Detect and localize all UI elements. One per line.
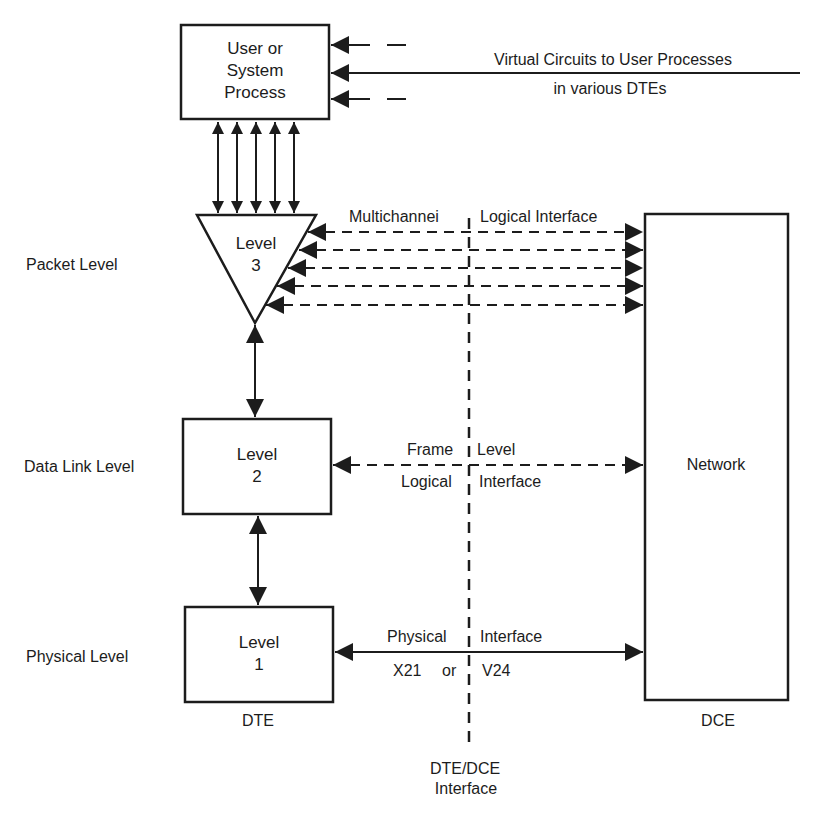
level2-line2: 2	[183, 466, 331, 488]
v24-label: V24	[482, 661, 510, 681]
dte-dce-interface-line1: DTE/DCE	[430, 759, 500, 779]
level3-line1: Level	[197, 233, 315, 255]
multichannel-label: Multichannei	[349, 207, 439, 227]
user-process-label: User or System Process	[181, 38, 329, 104]
user-process-line3: Process	[181, 82, 329, 104]
logical-interface-label: Logical Interface	[480, 207, 597, 227]
frame-label: Frame	[407, 440, 453, 460]
level1-line2: 1	[185, 654, 333, 676]
or-label: or	[442, 661, 456, 681]
dte-label: DTE	[242, 711, 274, 731]
frame-logical-label: Logical	[401, 472, 452, 492]
network-label: Network	[687, 455, 746, 475]
diagram-graphics	[0, 0, 821, 815]
dte-dce-interface-line2: Interface	[435, 779, 497, 799]
virtual-circuits-label: Virtual Circuits to User Processes	[494, 50, 732, 70]
level2-line1: Level	[183, 444, 331, 466]
various-dtes-label: in various DTEs	[554, 79, 667, 99]
x25-diagram: User or System Process Virtual Circuits …	[0, 0, 821, 815]
data-link-level-label: Data Link Level	[24, 457, 134, 477]
physical-level-label: Physical Level	[26, 647, 128, 667]
multichannel-arrows	[266, 232, 643, 305]
process-channel-arrows	[218, 122, 294, 213]
level2-label: Level 2	[183, 444, 331, 488]
x21-label: X21	[393, 661, 421, 681]
packet-level-label: Packet Level	[26, 255, 118, 275]
level3-label: Level 3	[197, 233, 315, 277]
dce-label: DCE	[701, 711, 735, 731]
physical-label: Physical	[387, 627, 447, 647]
level3-line2: 3	[197, 255, 315, 277]
level1-label: Level 1	[185, 632, 333, 676]
frame-level-label: Level	[477, 440, 515, 460]
user-process-line1: User or	[181, 38, 329, 60]
user-process-line2: System	[181, 60, 329, 82]
physical-interface-label: Interface	[480, 627, 542, 647]
frame-interface-label: Interface	[479, 472, 541, 492]
level1-line1: Level	[185, 632, 333, 654]
